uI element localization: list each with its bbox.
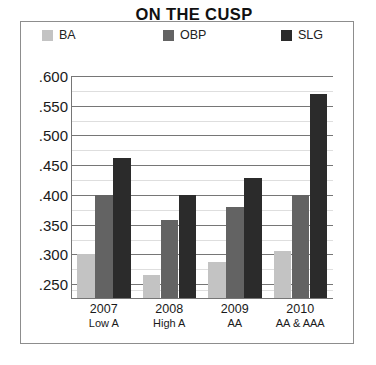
legend-label-obp: OBP	[180, 29, 206, 42]
y-tick-label: .300	[16, 247, 68, 262]
x-tick-group-2007: 2007Low A	[71, 302, 137, 330]
legend-item-obp: OBP	[163, 29, 206, 42]
x-tick-sublabel: High A	[137, 316, 203, 330]
x-axis-tick-labels: 2007Low A2008High A2009AA2010AA & AAA	[71, 302, 333, 338]
y-tick-label: .600	[16, 69, 68, 84]
plot-area	[71, 76, 333, 299]
y-axis-line	[71, 76, 72, 299]
x-tick-group-2008: 2008High A	[137, 302, 203, 330]
legend-item-slg: SLG	[281, 29, 323, 42]
legend-label-ba: BA	[59, 29, 76, 42]
x-tick-year: 2008	[137, 302, 203, 316]
chart-legend: BA OBP SLG	[36, 29, 331, 47]
x-tick-year: 2009	[202, 302, 268, 316]
legend-swatch-ba	[42, 30, 53, 41]
bar-ba-2007	[77, 254, 95, 299]
bar-obp-2007	[95, 195, 113, 299]
legend-label-slg: SLG	[298, 29, 323, 42]
x-tick-year: 2007	[71, 302, 137, 316]
x-tick-sublabel: AA & AAA	[268, 316, 334, 330]
bar-obp-2009	[226, 207, 244, 299]
bar-slg-2010	[310, 94, 328, 299]
legend-swatch-slg	[281, 30, 292, 41]
bar-ba-2009	[208, 262, 226, 299]
y-tick-label: .500	[16, 128, 68, 143]
y-tick-label: .400	[16, 188, 68, 203]
bar-ba-2010	[274, 251, 292, 299]
y-tick-label: .350	[16, 218, 68, 233]
x-tick-sublabel: Low A	[71, 316, 137, 330]
x-tick-group-2009: 2009AA	[202, 302, 268, 330]
y-axis-tick-labels: .600.550.500.450.400.350.300.250	[12, 76, 68, 299]
bars-layer	[71, 76, 333, 299]
legend-item-ba: BA	[42, 29, 76, 42]
y-tick-label: .550	[16, 99, 68, 114]
bar-slg-2009	[244, 178, 262, 299]
chart-title: ON THE CUSP	[55, 5, 333, 24]
x-tick-year: 2010	[268, 302, 334, 316]
bar-obp-2008	[161, 220, 179, 299]
x-tick-sublabel: AA	[202, 316, 268, 330]
x-axis-line	[71, 298, 333, 300]
y-tick-label: .250	[16, 277, 68, 292]
x-tick-group-2010: 2010AA & AAA	[268, 302, 334, 330]
bar-slg-2007	[113, 158, 131, 299]
y-tick-label: .450	[16, 158, 68, 173]
bar-slg-2008	[179, 195, 197, 299]
bar-obp-2010	[292, 195, 310, 299]
legend-swatch-obp	[163, 30, 174, 41]
bar-ba-2008	[143, 275, 161, 299]
